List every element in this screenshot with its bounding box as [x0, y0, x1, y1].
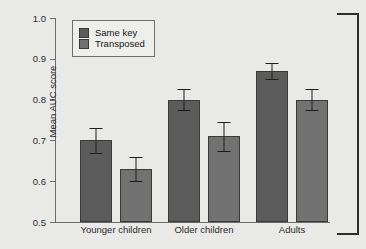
- legend-swatch-icon: [79, 28, 89, 38]
- right-bracket-annotation: [337, 13, 359, 235]
- error-bar-cap-upper: [306, 89, 319, 90]
- error-bar-line: [272, 63, 273, 79]
- error-bar-cap-lower: [218, 151, 231, 152]
- error-bar-cap-lower: [130, 181, 143, 182]
- error-bar-line: [184, 89, 185, 109]
- error-bar-line: [224, 122, 225, 151]
- error-bar-line: [312, 89, 313, 109]
- legend-item: Transposed: [79, 39, 145, 49]
- error-bar-line: [96, 128, 97, 152]
- y-axis-tick-label: 0.7: [33, 136, 46, 146]
- bar-chart-figure: Mean AUC score 1.00.90.80.70.60.5 Younge…: [0, 0, 366, 249]
- error-bar: [256, 18, 288, 222]
- legend-label: Same key: [95, 28, 137, 38]
- y-axis-tick-label: 0.5: [33, 218, 46, 228]
- chart-legend: Same keyTransposed: [72, 20, 155, 57]
- bar-group: Adults: [256, 18, 328, 222]
- y-axis-tick-label: 0.6: [33, 177, 46, 187]
- legend-label: Transposed: [95, 39, 145, 49]
- error-bar-cap-upper: [266, 63, 279, 64]
- error-bar: [208, 18, 240, 222]
- error-bar-cap-upper: [90, 128, 103, 129]
- y-axis-tick-label: 0.9: [33, 55, 46, 65]
- y-axis-tick-label: 1.0: [33, 14, 46, 24]
- error-bar-cap-upper: [218, 122, 231, 123]
- x-axis-line: [56, 222, 330, 223]
- error-bar: [296, 18, 328, 222]
- error-bar-cap-lower: [90, 153, 103, 154]
- error-bar-cap-lower: [306, 110, 319, 111]
- legend-swatch-icon: [79, 39, 89, 49]
- error-bar-cap-lower: [178, 110, 191, 111]
- y-axis-tick-label: 0.8: [33, 95, 46, 105]
- error-bar-cap-upper: [178, 89, 191, 90]
- legend-item: Same key: [79, 28, 145, 38]
- y-axis-tick: 0.5: [50, 222, 56, 223]
- error-bar: [168, 18, 200, 222]
- error-bar-line: [136, 157, 137, 181]
- bar-group: Older children: [168, 18, 240, 222]
- error-bar-cap-upper: [130, 157, 143, 158]
- error-bar-cap-lower: [266, 79, 279, 80]
